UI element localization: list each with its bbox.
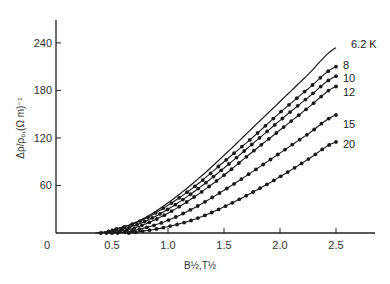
- data-point: [189, 192, 193, 196]
- data-point: [218, 191, 222, 195]
- series-curve: [129, 142, 336, 233]
- data-point: [148, 228, 152, 232]
- data-point: [215, 179, 219, 183]
- data-point: [319, 85, 323, 89]
- data-point: [159, 221, 163, 225]
- data-point: [334, 140, 338, 144]
- data-point: [161, 226, 165, 230]
- data-point: [170, 201, 174, 205]
- data-point: [290, 143, 294, 147]
- data-point: [189, 219, 193, 223]
- data-point: [201, 178, 205, 182]
- data-point: [293, 166, 297, 170]
- data-point: [189, 208, 193, 212]
- data-point: [207, 185, 211, 189]
- data-point: [173, 203, 177, 207]
- data-point: [196, 216, 200, 220]
- data-point: [296, 104, 300, 108]
- data-point: [123, 230, 127, 234]
- data-point: [326, 79, 330, 83]
- data-point: [147, 221, 151, 225]
- data-point: [231, 201, 235, 205]
- data-point: [265, 183, 269, 187]
- data-point: [259, 143, 263, 147]
- data-point: [295, 96, 299, 100]
- data-point: [150, 216, 154, 220]
- series-labels: 6.2 K810121520: [343, 38, 377, 150]
- x-tick-label: 0: [44, 239, 50, 251]
- data-point: [209, 172, 213, 176]
- data-point: [265, 130, 269, 134]
- data-point: [217, 208, 221, 212]
- series-label: 12: [343, 86, 355, 98]
- data-point: [175, 223, 179, 227]
- data-point: [256, 131, 260, 135]
- data-point: [312, 128, 316, 132]
- data-point: [267, 137, 271, 141]
- data-point: [237, 161, 241, 165]
- data-point: [258, 186, 262, 190]
- data-point: [181, 198, 185, 202]
- data-point: [203, 200, 207, 204]
- x-tick-label: 2.5: [328, 239, 343, 251]
- data-point: [283, 148, 287, 152]
- data-point: [146, 215, 150, 219]
- data-point: [192, 195, 196, 199]
- data-point: [286, 170, 290, 174]
- data-point: [264, 124, 268, 128]
- data-point: [155, 227, 159, 231]
- data-point: [237, 197, 241, 201]
- data-point: [320, 148, 324, 152]
- y-tick-label: 240: [34, 37, 52, 49]
- series-label: 10: [343, 72, 355, 84]
- data-point: [307, 157, 311, 161]
- x-axis-title: B½,T½: [184, 260, 217, 271]
- data-point: [99, 231, 103, 235]
- data-point: [313, 153, 317, 157]
- data-point: [311, 83, 315, 87]
- data-point: [166, 208, 170, 212]
- data-point: [138, 227, 142, 231]
- data-point: [210, 211, 214, 215]
- data-point: [327, 117, 331, 121]
- data-point: [244, 194, 248, 198]
- data-point: [116, 231, 120, 235]
- data-point: [232, 182, 236, 186]
- x-ticks: 00.51.01.52.02.5: [44, 228, 344, 251]
- data-point: [305, 133, 309, 137]
- data-point: [185, 200, 189, 204]
- y-tick-label: 180: [34, 84, 52, 96]
- axes: [56, 20, 375, 233]
- data-point: [254, 168, 258, 172]
- data-point: [217, 165, 221, 169]
- data-point: [248, 138, 252, 142]
- data-point: [334, 74, 338, 78]
- data-point: [252, 149, 256, 153]
- data-point: [334, 85, 338, 89]
- data-point: [258, 136, 262, 140]
- data-point: [334, 65, 338, 69]
- data-point: [225, 187, 229, 191]
- data-point: [224, 204, 228, 208]
- y-tick-label: 120: [34, 132, 52, 144]
- data-point: [105, 231, 109, 235]
- data-point: [327, 143, 331, 147]
- data-point: [311, 91, 315, 95]
- data-point: [196, 204, 200, 208]
- data-point: [287, 103, 291, 107]
- data-point: [162, 206, 166, 210]
- data-point: [110, 231, 114, 235]
- magnetoresistance-chart: 00.51.01.52.02.5 60120180240 6.2 K810121…: [0, 0, 390, 284]
- data-point: [127, 231, 131, 235]
- data-point: [212, 175, 216, 179]
- series-12: [110, 85, 338, 235]
- data-point: [203, 214, 207, 218]
- data-point: [227, 162, 231, 166]
- data-point: [196, 187, 200, 191]
- data-point: [240, 145, 244, 149]
- data-point: [304, 107, 308, 111]
- data-point: [232, 151, 236, 155]
- series-label: 20: [343, 138, 355, 150]
- data-point: [250, 143, 254, 147]
- data-point: [261, 163, 265, 167]
